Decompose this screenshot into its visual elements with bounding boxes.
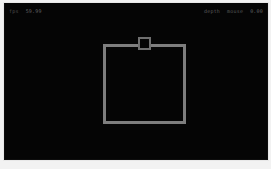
hud-left-label: fps	[9, 7, 19, 15]
hud-right-value: 0.00	[250, 7, 263, 15]
hud-overlay-right: depth mouse 0.00	[204, 7, 263, 15]
viewport-canvas[interactable]: fps 59.99 depth mouse 0.00	[4, 3, 268, 160]
hud-right-label-one: depth	[204, 7, 220, 15]
hud-right-label-two: mouse	[227, 7, 243, 15]
app-window: fps 59.99 depth mouse 0.00	[0, 0, 271, 169]
top-edge-handle[interactable]	[138, 37, 151, 50]
canvas-edge-sheen-left	[4, 3, 5, 160]
selection-rectangle[interactable]	[103, 44, 186, 124]
hud-left-value: 59.99	[26, 7, 42, 15]
viewport-frame: fps 59.99 depth mouse 0.00	[3, 2, 269, 161]
hud-overlay-left: fps 59.99	[9, 7, 42, 15]
canvas-edge-sheen-right	[267, 3, 268, 160]
canvas-edge-sheen-bottom	[4, 159, 268, 160]
